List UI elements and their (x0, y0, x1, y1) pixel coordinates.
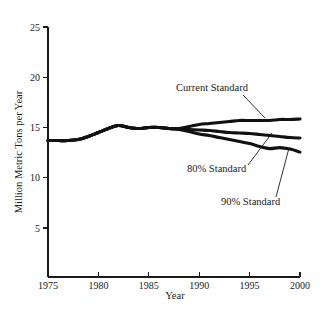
y-axis-title: Million Metric Tons per Year (13, 90, 24, 213)
axes (48, 27, 300, 277)
series-annotations: Current Standard80% Standard90% Standard (176, 82, 289, 207)
x-axis-title: Year (165, 290, 185, 301)
x-tick-label: 1985 (139, 280, 159, 291)
annotation-leader-line (243, 95, 265, 118)
annotation-label: 90% Standard (221, 196, 281, 207)
series-lines (48, 119, 300, 152)
x-tick-label: 1990 (189, 280, 209, 291)
y-tick-label: 20 (30, 72, 40, 83)
annotation-label: Current Standard (176, 82, 249, 93)
x-tick-label: 2000 (290, 280, 310, 291)
annotation-label: 80% Standard (187, 163, 247, 174)
annotation-leader-line (276, 148, 289, 197)
x-tick-label: 1995 (240, 280, 260, 291)
series-line-90-standard (48, 125, 300, 152)
line-chart: 510152025 197519801985199019952000 Curre… (0, 0, 326, 315)
y-tick-label: 25 (30, 22, 40, 33)
y-tick-label: 10 (30, 172, 40, 183)
x-axis-ticks: 197519801985199019952000 (38, 272, 310, 291)
chart-page: 510152025 197519801985199019952000 Curre… (0, 0, 326, 315)
x-tick-label: 1975 (38, 280, 58, 291)
y-tick-label: 5 (35, 223, 40, 234)
y-tick-label: 15 (30, 122, 40, 133)
y-axis-ticks: 510152025 (30, 22, 48, 234)
x-tick-label: 1980 (88, 280, 108, 291)
